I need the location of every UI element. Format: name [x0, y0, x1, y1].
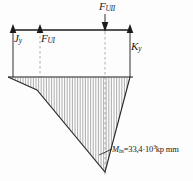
label-force-f-ui: FUI — [41, 33, 55, 45]
label-moment-value: Mbx=33,4·103kp mm — [112, 145, 179, 155]
label-f-uii-subscript: UII — [106, 4, 115, 13]
force-arrow-f-uii — [102, 14, 109, 176]
moment-number: 33,4 — [128, 144, 142, 154]
moment-unit: kp mm — [156, 144, 179, 154]
bending-moment-figure: FUII Jy FUI Ky Mbx=33,4·103kp mm — [0, 0, 193, 181]
moment-multiplier: ·10 — [142, 144, 153, 154]
label-ky-subscript: y — [138, 44, 141, 53]
label-force-f-uii: FUII — [99, 1, 115, 13]
label-force-jy: Jy — [14, 33, 22, 45]
moment-symbol: M — [112, 144, 119, 154]
label-f-ui-subscript: UI — [48, 36, 55, 45]
label-force-ky: Ky — [131, 41, 141, 53]
moment-area-outline — [8, 77, 130, 172]
label-jy-subscript: y — [19, 36, 22, 45]
